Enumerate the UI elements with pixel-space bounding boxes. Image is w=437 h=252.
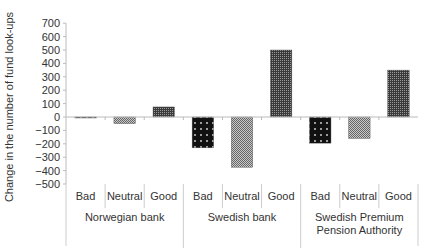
x-group-label: Swedish bank bbox=[208, 211, 277, 223]
y-tick-label: −300 bbox=[35, 151, 60, 163]
x-category-label: Bad bbox=[76, 190, 96, 202]
x-category-label: Good bbox=[150, 190, 177, 202]
x-group-label: Swedish Premium bbox=[315, 211, 404, 223]
x-category-label: Neutral bbox=[224, 190, 259, 202]
x-category-label: Good bbox=[385, 190, 412, 202]
y-tick-label: −400 bbox=[35, 165, 60, 177]
bar-norwegian-bank-good bbox=[153, 107, 175, 117]
bar-swedish-premium-pension-authority-bad bbox=[309, 117, 331, 143]
bar-swedish-bank-good bbox=[270, 50, 292, 117]
bar-swedish-bank-neutral bbox=[231, 117, 253, 167]
chart-canvas: 7006005004003002001000−100−200−300−400−5… bbox=[0, 0, 437, 252]
y-tick-label: 500 bbox=[42, 44, 60, 56]
bar-swedish-premium-pension-authority-neutral bbox=[349, 117, 371, 138]
y-tick-label: 700 bbox=[42, 17, 60, 29]
y-tick-label: −500 bbox=[35, 178, 60, 190]
y-tick-label: 400 bbox=[42, 57, 60, 69]
y-axis-label: Change in the number of fund look-ups bbox=[3, 11, 15, 202]
x-category-label: Bad bbox=[193, 190, 213, 202]
x-category-label: Neutral bbox=[342, 190, 377, 202]
x-category-label: Good bbox=[268, 190, 295, 202]
bars bbox=[75, 50, 409, 167]
x-group-label: Pension Authority bbox=[317, 224, 403, 236]
y-tick-label: 300 bbox=[42, 71, 60, 83]
x-group-label: Norwegian bank bbox=[85, 211, 165, 223]
y-tick-label: 600 bbox=[42, 31, 60, 43]
y-tick-label: −200 bbox=[35, 138, 60, 150]
y-tick-label: 0 bbox=[54, 111, 60, 123]
bar-chart: 7006005004003002001000−100−200−300−400−5… bbox=[0, 0, 437, 252]
bar-norwegian-bank-neutral bbox=[114, 117, 136, 124]
y-axis: 7006005004003002001000−100−200−300−400−5… bbox=[35, 17, 66, 190]
y-tick-label: 200 bbox=[42, 84, 60, 96]
y-tick-label: −100 bbox=[35, 124, 60, 136]
y-tick-label: 100 bbox=[42, 98, 60, 110]
bar-swedish-bank-bad bbox=[192, 117, 214, 148]
x-category-label: Bad bbox=[310, 190, 330, 202]
bar-swedish-premium-pension-authority-good bbox=[388, 70, 410, 117]
x-category-label: Neutral bbox=[107, 190, 142, 202]
